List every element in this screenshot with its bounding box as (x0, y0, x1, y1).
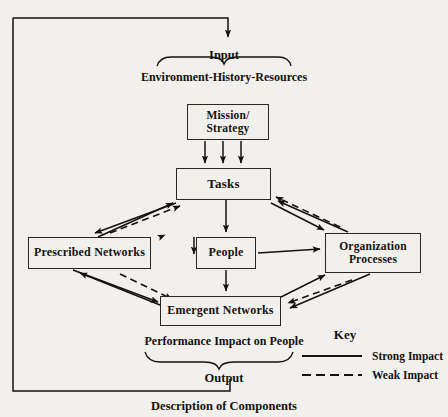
node-mission-line1: Mission/ (206, 109, 249, 121)
key-entry-strong-impact: Strong Impact (300, 350, 442, 362)
node-orgproc-line2: Processes (349, 253, 397, 265)
key-title: Key (302, 327, 388, 343)
solid-line-swatch (300, 351, 364, 361)
node-prescribed-networks[interactable]: Prescribed Networks (28, 237, 151, 269)
dashed-line-swatch (300, 370, 364, 380)
node-prescribed-label: Prescribed Networks (34, 246, 145, 259)
node-people-label: People (208, 246, 243, 259)
node-tasks[interactable]: Tasks (176, 168, 271, 200)
input-group-label: Environment-History-Resources (0, 70, 448, 84)
node-emergent-label: Emergent Networks (167, 304, 273, 317)
node-tasks-label: Tasks (207, 177, 239, 192)
input-label: Input (0, 48, 448, 63)
key-label-strong-impact: Strong Impact (372, 350, 443, 362)
figure-caption: Description of Components (0, 399, 448, 414)
key-label-weak-impact: Weak Impact (372, 369, 438, 381)
node-emergent-networks[interactable]: Emergent Networks (160, 296, 281, 326)
key-entry-weak-impact: Weak Impact (300, 369, 442, 381)
node-organization-processes[interactable]: Organization Processes (325, 233, 421, 273)
node-mission-strategy[interactable]: Mission/ Strategy (187, 104, 269, 140)
node-mission-line2: Strategy (206, 122, 249, 134)
key-legend: Key Strong Impact Weak Impact (300, 327, 442, 381)
output-brace (145, 352, 293, 369)
node-orgproc-line1: Organization (339, 240, 407, 252)
node-people[interactable]: People (196, 237, 256, 269)
diagram-canvas: Mission/ Strategy Tasks Prescribed Netwo… (0, 0, 448, 417)
